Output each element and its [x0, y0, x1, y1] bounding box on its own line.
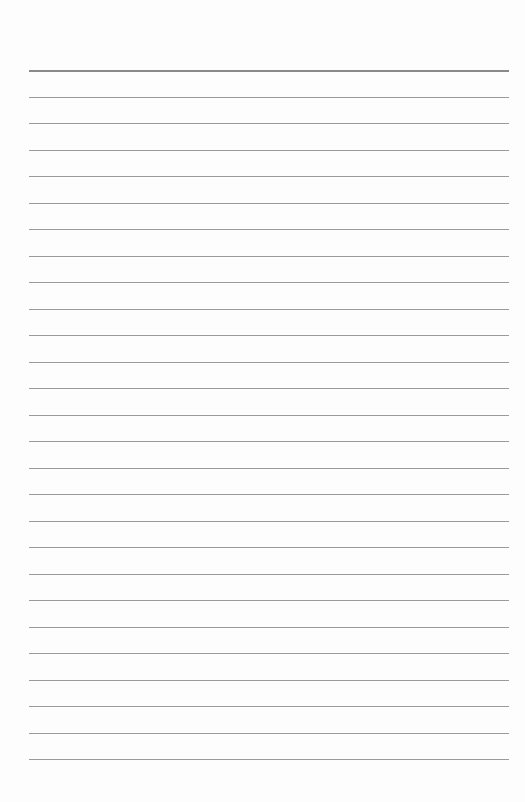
ruled-line	[29, 150, 509, 151]
ruled-line	[29, 123, 509, 124]
ruled-line	[29, 600, 509, 601]
ruled-line	[29, 733, 509, 734]
ruled-line	[29, 441, 509, 442]
ruled-line	[29, 706, 509, 707]
ruled-line	[29, 388, 509, 389]
ruled-line	[29, 229, 509, 230]
ruled-line	[29, 256, 509, 257]
ruled-line	[29, 362, 509, 363]
ruled-line	[29, 653, 509, 654]
ruled-line	[29, 574, 509, 575]
ruled-line	[29, 468, 509, 469]
ruled-line	[29, 759, 509, 760]
ruled-line	[29, 680, 509, 681]
ruled-line	[29, 335, 509, 336]
ruled-line	[29, 547, 509, 548]
lined-paper-page	[0, 0, 525, 802]
ruled-line	[29, 627, 509, 628]
ruled-line	[29, 309, 509, 310]
ruled-line	[29, 176, 509, 177]
ruled-line	[29, 521, 509, 522]
ruled-line	[29, 415, 509, 416]
ruled-line	[29, 282, 509, 283]
ruled-line	[29, 494, 509, 495]
ruled-line	[29, 203, 509, 204]
ruled-line	[29, 97, 509, 98]
header-rule-line	[29, 70, 509, 72]
